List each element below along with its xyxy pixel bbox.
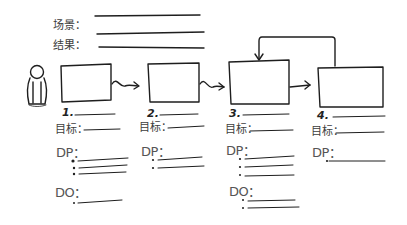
step-1-box <box>61 64 111 102</box>
scene-blank-line-2 <box>97 32 204 34</box>
step-1-dp-label: DP： <box>56 146 85 159</box>
step-1-do-label: DO： <box>55 186 87 199</box>
step-4-box <box>318 67 383 107</box>
step-1-goal-label: 目标： <box>55 124 88 135</box>
scene-blank-line-1 <box>95 15 200 16</box>
step-3-number: 3. <box>229 108 241 119</box>
step-2-box <box>148 63 199 102</box>
step-4-dp-label: DP： <box>312 146 341 159</box>
step-3-box <box>229 60 289 104</box>
step-3-do-label: DO： <box>229 185 261 198</box>
step-3-dp-label: DP： <box>226 144 255 157</box>
result-blank-line <box>99 47 204 48</box>
step-4-goal-label: 目标： <box>311 126 344 137</box>
result-label: 结果： <box>53 40 86 51</box>
scene-label: 场景： <box>53 20 86 31</box>
step-2-goal-label: 目标： <box>139 122 172 133</box>
person-icon <box>28 66 47 107</box>
feedback-arrow-4-to-3 <box>259 37 335 66</box>
step-2-number: 2. <box>147 108 159 119</box>
step-4-number: 4. <box>317 110 329 121</box>
step-1-number: 1. <box>62 107 74 118</box>
step-2-dp-label: DP： <box>141 145 170 158</box>
step-3-goal-label: 目标： <box>225 124 258 135</box>
